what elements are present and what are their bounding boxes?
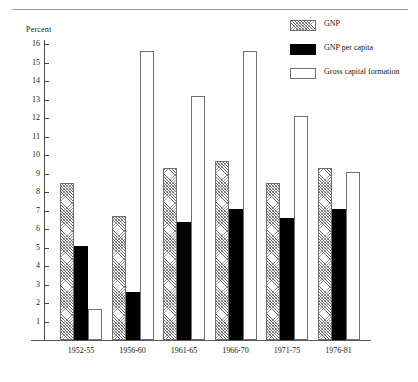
x-tick-label-1966-70: 1966-70 [214,346,258,355]
y-tick-7 [45,211,49,212]
legend-label-gnp: GNP [324,19,340,28]
legend-label-gross-capital-formation: Gross capital formation [324,67,400,76]
plot-area: Percent 12345678910111213141516 1952-551… [0,0,418,382]
y-tick-14 [45,81,49,82]
y-tick-3 [45,285,49,286]
y-tick-10 [45,155,49,156]
y-tick-label-2: 2 [24,298,40,307]
y-tick-11 [45,137,49,138]
bar-gnp-1961-65 [163,168,177,340]
bar-gross-capital-formation-1952-55 [88,309,102,340]
y-tick-label-16: 16 [24,39,40,48]
y-tick-9 [45,174,49,175]
bar-gnp-1956-60 [112,216,126,340]
y-tick-13 [45,100,49,101]
y-tick-5 [45,248,49,249]
y-tick-label-12: 12 [24,113,40,122]
y-tick-8 [45,192,49,193]
x-tick-label-1961-65: 1961-65 [162,346,206,355]
x-tick-label-1971-75: 1971-75 [265,346,309,355]
legend-label-gnp-per-capita: GNP per capita [324,43,373,52]
white-swatch-icon [290,68,316,79]
y-tick-label-8: 8 [24,187,40,196]
y-tick-4 [45,266,49,267]
y-axis-title: Percent [26,25,51,34]
bar-gnp-1966-70 [215,161,229,340]
y-tick-label-15: 15 [24,58,40,67]
bar-gross-capital-formation-1961-65 [191,96,205,340]
y-tick-12 [45,118,49,119]
black-swatch-icon [290,44,316,55]
x-tick-label-1952-55: 1952-55 [59,346,103,355]
bar-gross-capital-formation-1966-70 [243,51,257,340]
y-tick-6 [45,229,49,230]
y-axis-line [44,40,45,341]
y-tick-label-1: 1 [24,317,40,326]
bar-gnp-per-capita-1956-60 [126,292,140,340]
bar-gnp-1976-81 [318,168,332,340]
y-tick-label-13: 13 [24,95,40,104]
y-tick-1 [45,322,49,323]
hatched-swatch-icon [290,20,316,31]
bar-gnp-1952-55 [60,183,74,340]
y-tick-label-4: 4 [24,261,40,270]
x-tick-label-1976-81: 1976-81 [317,346,361,355]
bar-gnp-per-capita-1961-65 [177,222,191,340]
y-tick-label-5: 5 [24,243,40,252]
bar-gnp-per-capita-1976-81 [332,209,346,340]
y-tick-16 [45,44,49,45]
bar-gross-capital-formation-1971-75 [294,116,308,340]
bar-gnp-per-capita-1966-70 [229,209,243,340]
bar-gnp-per-capita-1971-75 [280,218,294,340]
y-tick-label-11: 11 [24,132,40,141]
x-tick-label-1956-60: 1956-60 [111,346,155,355]
y-tick-label-14: 14 [24,76,40,85]
bar-gross-capital-formation-1956-60 [140,51,154,340]
y-tick-label-10: 10 [24,150,40,159]
bar-gnp-per-capita-1952-55 [74,246,88,340]
y-tick-label-9: 9 [24,169,40,178]
y-tick-2 [45,303,49,304]
bar-gross-capital-formation-1976-81 [346,172,360,340]
chart-container: Percent 12345678910111213141516 1952-551… [0,0,418,382]
y-tick-label-3: 3 [24,280,40,289]
y-tick-label-6: 6 [24,224,40,233]
bar-gnp-1971-75 [266,183,280,340]
y-tick-label-7: 7 [24,206,40,215]
x-axis-line [31,340,371,341]
y-tick-15 [45,63,49,64]
